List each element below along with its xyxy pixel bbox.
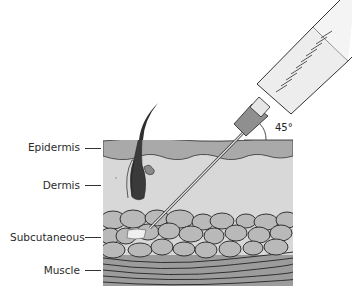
- leader-muscle: [85, 270, 101, 271]
- angle-arc: [260, 124, 266, 140]
- leader-dermis: [85, 185, 101, 186]
- label-dermis: Dermis: [10, 179, 80, 191]
- angle-label: 45°: [275, 122, 293, 133]
- label-muscle: Muscle: [10, 264, 80, 276]
- hair-shaft: [139, 103, 158, 140]
- label-subcutaneous: Subcutaneous: [10, 231, 80, 243]
- label-epidermis: Epidermis: [10, 141, 80, 153]
- leader-epidermis: [85, 148, 101, 149]
- leader-subcutaneous: [85, 237, 101, 238]
- injected-medication: [127, 229, 146, 239]
